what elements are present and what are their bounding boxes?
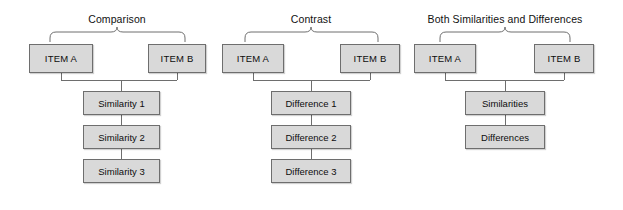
detail-box-contrast-2: Difference 2 [271, 125, 351, 149]
item-box-both-similarities-and-differences-a: ITEM A [414, 44, 476, 73]
detail-box-both-similarities-and-differences-2: Differences [465, 125, 545, 149]
item-box-contrast-a: ITEM A [222, 44, 284, 73]
item-box-comparison-a: ITEM A [29, 44, 93, 73]
item-box-contrast-b: ITEM B [340, 44, 400, 73]
group-brace [440, 27, 570, 42]
detail-box-comparison-2: Similarity 2 [83, 125, 160, 149]
detail-box-comparison-1: Similarity 1 [83, 91, 160, 115]
item-box-both-similarities-and-differences-b: ITEM B [534, 44, 594, 73]
detail-box-comparison-3: Similarity 3 [83, 159, 160, 183]
item-box-comparison-b: ITEM B [148, 44, 206, 73]
group-title-contrast: Contrast [291, 13, 331, 25]
detail-box-contrast-1: Difference 1 [271, 91, 351, 115]
group-brace [245, 27, 378, 42]
detail-box-contrast-3: Difference 3 [271, 159, 351, 183]
comparison-contrast-diagram: ComparisonContrastBoth Similarities and … [0, 0, 623, 210]
group-title-comparison: Comparison [88, 13, 146, 25]
group-title-both-similarities-and-differences: Both Similarities and Differences [428, 13, 583, 25]
group-brace [50, 27, 185, 42]
detail-box-both-similarities-and-differences-1: Similarities [465, 91, 545, 115]
